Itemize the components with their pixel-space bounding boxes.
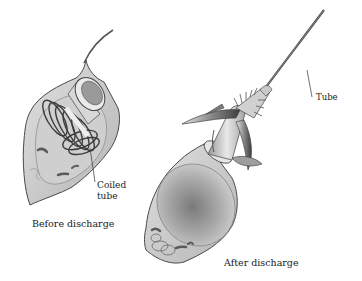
tube-leader-line <box>307 70 312 97</box>
stylet-lower <box>232 156 262 166</box>
after-discharge-cell <box>142 10 324 263</box>
after-discharge-caption: After discharge <box>224 258 299 268</box>
before-discharge-caption: Before discharge <box>32 219 114 229</box>
before-discharge-cell <box>23 30 119 205</box>
diagram-artwork <box>0 0 362 281</box>
cnidocil-trigger <box>84 30 113 63</box>
coiled-tube-label: Coiled tube <box>97 180 137 202</box>
nematocyst-diagram: Tube Coiled tube Before discharge After … <box>0 0 362 281</box>
tube-label: Tube <box>316 93 338 102</box>
